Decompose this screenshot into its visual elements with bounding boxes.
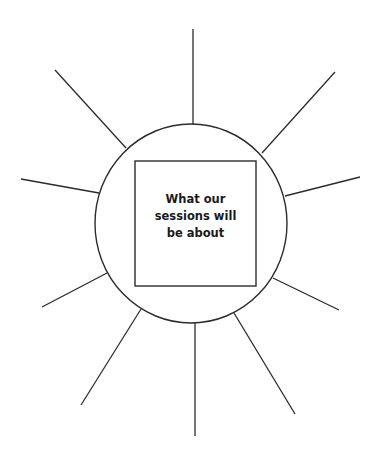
ray-upper-left (55, 70, 126, 148)
ray-lower-right-2 (234, 313, 295, 414)
ray-lower-left-2 (81, 309, 141, 405)
ray-lower-right (273, 278, 339, 310)
ray-upper-right (262, 72, 335, 153)
ray-left (21, 179, 99, 193)
worksheet-canvas: What our sessions will be about (0, 0, 379, 458)
center-label-line-3: be about (155, 225, 237, 242)
center-label-line-1: What our (155, 191, 237, 208)
center-label-line-2: sessions will (155, 208, 237, 225)
center-label: What our sessions will be about (135, 161, 256, 286)
ray-right (285, 177, 360, 196)
ray-lower-left (42, 273, 107, 307)
